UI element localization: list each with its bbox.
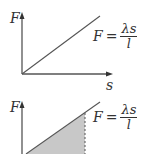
equation-numerator: λs xyxy=(120,103,137,118)
equation-operator: = xyxy=(106,28,118,44)
x-axis-label: s xyxy=(106,78,113,92)
equation-lhs: F xyxy=(93,109,103,125)
y-axis-label: F xyxy=(10,100,20,114)
equation-fraction: λs l xyxy=(120,103,137,131)
x-axis-arrow-icon xyxy=(106,72,113,77)
y-axis-arrow-icon xyxy=(20,12,25,19)
graph-2: F F = λs l xyxy=(0,92,142,154)
equation-denominator: l xyxy=(127,118,131,132)
y-axis-arrow-icon xyxy=(20,101,25,108)
equation-fraction: λs l xyxy=(120,22,137,50)
equation-lhs: F xyxy=(93,28,103,44)
equation: F = λs l xyxy=(93,22,137,50)
equation-numerator: λs xyxy=(120,22,137,37)
plot-line xyxy=(22,16,100,74)
equation: F = λs l xyxy=(93,103,137,131)
equation-denominator: l xyxy=(127,37,131,51)
equation-operator: = xyxy=(106,109,118,125)
graph-1: F s F = λs l xyxy=(0,0,142,92)
y-axis-label: F xyxy=(10,11,20,25)
